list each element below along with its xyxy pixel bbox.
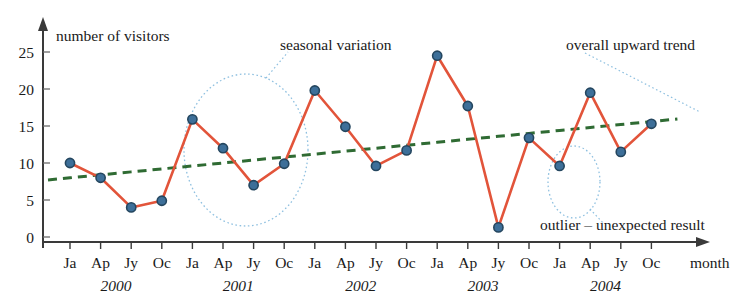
x-month-label: Ap <box>84 254 118 272</box>
data-point[interactable] <box>402 146 411 155</box>
x-month-label: Jy <box>114 254 148 272</box>
chart-canvas: number of visitors month 2520151050 JaAp… <box>0 0 752 305</box>
x-month-label: Jy <box>359 254 393 272</box>
seasonal-variation-leader <box>266 52 288 78</box>
x-month-label: Ja <box>420 254 454 272</box>
y-axis-title: number of visitors <box>56 27 170 45</box>
x-month-label: Ap <box>206 254 240 272</box>
data-point[interactable] <box>65 158 74 167</box>
x-month-label: Oc <box>512 254 546 272</box>
y-tick-label: 10 <box>8 155 34 173</box>
x-month-label: Oc <box>634 254 668 272</box>
y-tick-label: 15 <box>8 118 34 136</box>
x-year-label: 2003 <box>453 277 513 295</box>
x-axis-title: month <box>690 254 730 272</box>
data-point[interactable] <box>157 196 166 205</box>
x-month-label: Ja <box>298 254 332 272</box>
data-point[interactable] <box>555 161 564 170</box>
annotation-overall-upward-trend: overall upward trend <box>566 36 695 54</box>
x-ticks-group <box>70 242 651 249</box>
x-month-label: Jy <box>604 254 638 272</box>
data-point[interactable] <box>127 203 136 212</box>
data-point[interactable] <box>586 88 595 97</box>
x-year-label: 2000 <box>86 277 146 295</box>
data-markers-group <box>65 51 656 232</box>
highlight-circles-group <box>184 52 700 226</box>
data-point[interactable] <box>310 86 319 95</box>
x-month-label: Jy <box>237 254 271 272</box>
x-axis-arrow <box>696 237 710 247</box>
data-point[interactable] <box>524 133 533 142</box>
data-point[interactable] <box>616 147 625 156</box>
x-month-label: Ap <box>451 254 485 272</box>
x-month-label: Ja <box>175 254 209 272</box>
x-month-label: Ja <box>543 254 577 272</box>
x-year-label: 2004 <box>576 277 636 295</box>
data-point[interactable] <box>341 122 350 131</box>
data-point[interactable] <box>280 159 289 168</box>
outlier-circle <box>548 146 600 218</box>
x-year-label: 2001 <box>208 277 268 295</box>
data-point[interactable] <box>463 101 472 110</box>
y-tick-label: 25 <box>8 44 34 62</box>
data-point[interactable] <box>96 173 105 182</box>
x-month-label: Oc <box>145 254 179 272</box>
data-point[interactable] <box>218 144 227 153</box>
y-tick-label: 0 <box>8 229 34 247</box>
data-point[interactable] <box>433 51 442 60</box>
data-point[interactable] <box>647 119 656 128</box>
x-month-label: Ap <box>573 254 607 272</box>
y-tick-label: 20 <box>8 81 34 99</box>
data-point[interactable] <box>188 115 197 124</box>
x-month-label: Ja <box>53 254 87 272</box>
annotation-outlier: outlier – unexpected result <box>540 216 705 234</box>
data-point[interactable] <box>494 223 503 232</box>
x-month-label: Oc <box>390 254 424 272</box>
x-month-label: Jy <box>481 254 515 272</box>
annotation-seasonal-variation: seasonal variation <box>280 36 391 54</box>
data-point[interactable] <box>249 181 258 190</box>
y-ticks-group <box>43 52 50 237</box>
x-month-label: Oc <box>267 254 301 272</box>
x-year-label: 2002 <box>331 277 391 295</box>
x-month-label: Ap <box>328 254 362 272</box>
data-point[interactable] <box>371 161 380 170</box>
y-tick-label: 5 <box>8 192 34 210</box>
y-axis-arrow <box>38 17 48 31</box>
trend-leader <box>585 53 700 112</box>
